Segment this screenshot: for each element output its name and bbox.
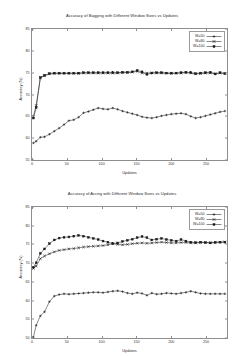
series-marker [92,109,94,111]
y-tick-label: 60 [25,299,29,303]
series-marker [175,112,177,114]
series-marker [185,71,187,73]
x-axis-label-arcing: Updates [31,348,228,353]
y-tick-label: 70 [25,93,29,97]
series-marker [44,74,46,76]
y-tick-label: 55 [25,317,29,321]
y-tick-mark [225,263,227,264]
x-tick-mark [102,336,103,338]
series-marker [58,72,60,74]
series-marker [68,236,70,238]
series-marker [48,243,50,245]
series-marker [151,292,153,294]
y-tick-mark [32,281,34,282]
x-tick-mark [171,207,172,209]
y-tick-mark [32,319,34,320]
series-marker [195,73,197,75]
series-marker [136,114,138,116]
x-axis-label-bagging: Updates [31,170,228,175]
series-marker [35,262,37,264]
series-line [33,108,225,143]
y-tick-label: 60 [25,136,29,140]
series-line [33,242,225,269]
series-marker [190,290,192,292]
x-tick-mark [136,336,137,338]
series-marker [97,291,99,293]
legend-label: W=80 [192,217,205,221]
x-tick-mark [171,158,172,160]
x-tick-label: 100 [99,340,105,344]
series-marker [32,142,34,144]
legend-item[interactable]: W=100 [192,222,223,227]
series-marker [146,73,148,75]
series-marker [141,236,143,238]
series-marker [165,239,167,241]
y-tick-mark [225,244,227,245]
series-marker [126,292,128,294]
series-marker [35,324,37,326]
series-marker [161,238,163,240]
series-marker [209,242,211,244]
series-marker [32,117,34,119]
x-tick-mark [136,207,137,209]
legend-sample [206,222,222,227]
series-marker [151,72,153,74]
series-marker [35,265,37,267]
series-marker [121,290,123,292]
y-tick-label: 65 [25,114,29,118]
y-tick-mark [32,50,34,51]
series-marker [209,113,211,115]
x-tick-mark [67,207,68,209]
series-marker [209,71,211,73]
series-marker [92,238,94,240]
y-tick-mark [225,116,227,117]
x-tick-label: 0 [31,162,33,166]
series-marker [155,116,157,118]
y-tick-mark [32,263,34,264]
series-marker [78,72,80,74]
series-marker [194,291,196,293]
x-tick-mark [102,207,103,209]
series-marker [44,248,46,250]
x-tick-label: 50 [65,162,69,166]
x-tick-label: 150 [133,162,139,166]
series-marker [146,294,148,296]
series-marker [204,293,206,295]
y-tick-mark [225,207,227,208]
series-marker [107,291,109,293]
series-marker [107,108,109,110]
series-marker [126,71,128,73]
series-marker [87,72,89,74]
plot-area-arcing: W=50W=80W=100 50556065707580850501001502… [31,206,228,339]
y-tick-mark [225,160,227,161]
series-marker [190,241,192,243]
legend-label: W=100 [192,222,205,226]
series-marker [146,237,148,239]
legend-item[interactable]: W=100 [192,44,223,49]
legend-bagging: W=50W=80W=100 [189,31,226,52]
series-marker [195,242,197,244]
series-marker [102,108,104,110]
x-tick-mark [32,336,33,338]
series-marker [200,72,202,74]
series-marker [160,293,162,295]
y-tick-label: 65 [25,280,29,284]
series-marker [194,117,196,119]
series-marker [141,71,143,73]
series-line [33,71,225,116]
series-marker [92,291,94,293]
series-marker [161,72,163,74]
y-tick-mark [32,300,34,301]
series-marker [73,235,75,237]
series-marker [180,239,182,241]
series-marker [180,72,182,74]
y-tick-mark [225,50,227,51]
chart-bagging: Accuracy of Bagging with Different Windo… [0,0,244,178]
series-marker [102,72,104,74]
series-marker [136,70,138,72]
chart-title-bagging: Accuracy of Bagging with Different Windo… [0,13,244,18]
y-tick-mark [225,94,227,95]
series-marker [136,237,138,239]
y-tick-mark [32,244,34,245]
x-tick-label: 200 [168,340,174,344]
